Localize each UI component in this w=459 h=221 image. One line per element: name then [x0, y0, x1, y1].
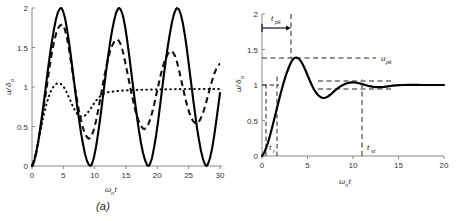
panel-a-ytick-4: 2 — [24, 4, 29, 13]
panel-a-ytick-1: 0.5 — [17, 123, 29, 132]
panel-a-y-axis-label: u / δ o — [4, 79, 15, 95]
annotation-tr-sub: r — [273, 148, 276, 154]
panel-b-xtick-3: 15 — [394, 161, 403, 170]
panel-a-ytick-3: 1.5 — [17, 44, 29, 53]
panel-b-ytick-0: 0 — [254, 152, 259, 161]
panel-a-caption: (a) — [96, 200, 110, 212]
panel-a-xlabel-t: t — [115, 185, 118, 194]
figure-container: 0 0.5 1 1.5 2 0 5 10 15 20 25 30 — [0, 0, 459, 221]
panel-b-xtick-4: 20 — [440, 161, 449, 170]
panel-b-x-axis-label: ω n t — [339, 177, 352, 188]
panel-b-xtick-1: 5 — [305, 161, 310, 170]
panel-b-ylabel-delta-sub: o — [239, 76, 245, 79]
panel-a-ylabel-slash: / — [4, 88, 13, 92]
panel-a-xtick-0: 0 — [30, 171, 35, 180]
panel-b-xtick-2: 10 — [349, 161, 358, 170]
panel-a-ylabel-delta-sub: o — [9, 79, 15, 82]
annotation-tpk-sub: pk — [274, 19, 281, 25]
annotation-tst: t st — [367, 143, 376, 154]
panel-a: 0 0.5 1 1.5 2 0 5 10 15 20 25 30 — [0, 0, 230, 221]
panel-b: 0 0.5 1 1.5 2 0 5 10 15 20 ω n t — [230, 0, 459, 221]
panel-b-plot: 0 0.5 1 1.5 2 0 5 10 15 20 ω n t — [230, 0, 459, 221]
annotation-tr: t r — [269, 143, 276, 154]
panel-a-xtick-1: 5 — [61, 171, 66, 180]
panel-b-ytick-3: 1.5 — [247, 46, 259, 55]
annotation-tpk-main: t — [271, 14, 274, 23]
annotation-upk-sub: pk — [385, 59, 392, 65]
panel-a-series-solid — [32, 8, 220, 166]
panel-a-ytick-2: 1 — [24, 83, 29, 92]
panel-b-ytick-1: 0.5 — [247, 117, 259, 126]
panel-b-ytick-2: 1 — [254, 81, 259, 90]
panel-b-ylabel-slash: / — [234, 85, 243, 89]
panel-a-xtick-2: 10 — [90, 171, 99, 180]
tpk-arrow — [262, 24, 291, 32]
panel-a-xtick-6: 30 — [216, 171, 225, 180]
panel-b-xtick-0: 0 — [260, 161, 265, 170]
panel-a-xtick-3: 15 — [122, 171, 131, 180]
panel-a-xtick-5: 25 — [184, 171, 193, 180]
panel-a-plot: 0 0.5 1 1.5 2 0 5 10 15 20 25 30 — [0, 0, 230, 221]
panel-b-ytick-4: 2 — [254, 10, 259, 19]
annotation-upk: u pk — [381, 54, 392, 65]
annotation-tpk: t pk — [271, 14, 281, 25]
panel-a-ytick-0: 0 — [24, 162, 29, 171]
panel-b-xlabel-t: t — [349, 177, 352, 186]
panel-b-y-axis-label: u / δ o — [234, 76, 245, 92]
panel-b-series-step-response — [262, 58, 444, 157]
annotation-tst-main: t — [367, 143, 370, 152]
panel-a-x-axis-label: ω n t — [105, 185, 118, 196]
panel-a-xtick-4: 20 — [153, 171, 162, 180]
annotation-tst-sub: st — [371, 148, 376, 154]
annotation-tr-main: t — [269, 143, 272, 152]
